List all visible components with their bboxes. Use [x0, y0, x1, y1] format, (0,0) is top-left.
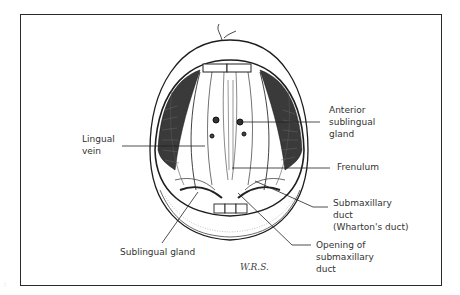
- lower-teeth: [214, 204, 247, 213]
- leader-sublingual-gland: [162, 192, 198, 243]
- frenulum-line: [230, 78, 231, 170]
- mouth-illustration: [0, 0, 460, 295]
- label-opening-submaxillary-duct: Opening of submaxillary duct: [316, 239, 374, 275]
- label-submaxillary-duct: Submaxillary duct (Wharton's duct): [333, 197, 409, 233]
- label-lingual-vein: Lingual vein: [82, 133, 115, 157]
- leader-submaxillary-duct: [255, 181, 328, 207]
- tuft: [218, 24, 236, 40]
- label-sublingual-gland: Sublingual gland: [120, 246, 195, 258]
- label-frenulum: Frenulum: [337, 161, 379, 173]
- upper-teeth: [203, 64, 251, 72]
- label-anterior-sublingual-gland: Anterior sublingual gland: [329, 104, 375, 140]
- artist-signature: W.R.S.: [240, 262, 269, 272]
- margin-mark: :: [4, 280, 6, 287]
